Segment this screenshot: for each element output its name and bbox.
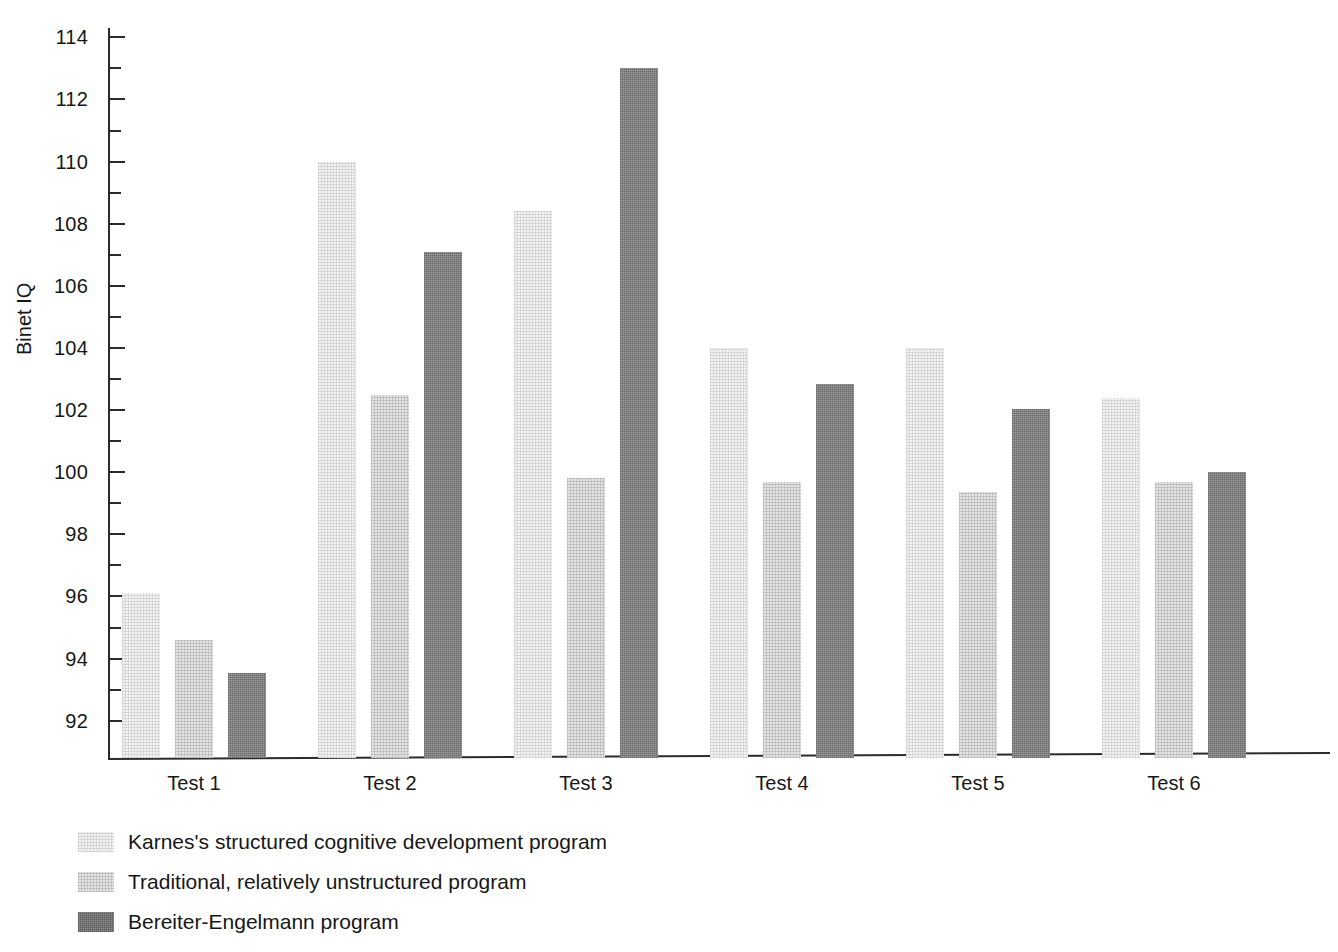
bar (763, 482, 801, 758)
bar (122, 593, 160, 758)
bar (906, 348, 944, 758)
y-axis-minor-tick (110, 192, 121, 194)
legend-item-label: Traditional, relatively unstructured pro… (128, 866, 526, 898)
y-axis-tick-label: 92 (65, 711, 88, 731)
y-axis-title: Binet IQ (14, 283, 34, 355)
bar (318, 162, 356, 758)
bar (424, 252, 462, 758)
y-axis-major-tick (110, 223, 125, 225)
y-axis-tick-label: 114 (56, 27, 89, 47)
x-axis-tick-label: Test 4 (710, 772, 854, 794)
y-axis-line (108, 28, 110, 760)
y-axis-tick-label: 110 (56, 152, 89, 172)
y-axis-minor-tick (110, 378, 121, 380)
legend-swatch-light (78, 832, 114, 852)
bar (175, 640, 213, 758)
y-axis-minor-tick (110, 564, 121, 566)
legend-item-label: Bereiter-Engelmann program (128, 906, 399, 938)
bar (228, 673, 266, 758)
x-axis-tick-label: Test 3 (514, 772, 658, 794)
y-axis-tick-label: 104 (54, 338, 88, 358)
plot-area: 11411211010810610410210098969492 Test 1T… (108, 28, 1330, 760)
bar (1155, 482, 1193, 758)
x-axis-tick-label: Test 5 (906, 772, 1050, 794)
bar (514, 211, 552, 758)
y-axis-major-tick (110, 533, 125, 535)
y-axis-major-tick (110, 98, 125, 100)
y-axis-tick-label: 94 (65, 649, 88, 669)
y-axis-major-tick (110, 285, 125, 287)
y-axis-major-tick (110, 161, 125, 163)
legend-swatch-medium-light (78, 872, 114, 892)
x-axis-tick-label: Test 6 (1102, 772, 1246, 794)
x-axis-tick-label: Test 2 (318, 772, 462, 794)
bar (1208, 472, 1246, 758)
y-axis-tick-label: 102 (54, 400, 88, 420)
bar (1012, 409, 1050, 758)
y-axis-minor-tick (110, 440, 121, 442)
y-axis-minor-tick (110, 502, 121, 504)
bar (567, 478, 605, 758)
y-axis-tick-label: 106 (54, 276, 88, 296)
y-axis-tick-label: 108 (54, 214, 88, 234)
y-axis-minor-tick (110, 254, 121, 256)
bar (371, 395, 409, 758)
y-axis-tick-label: 112 (56, 89, 89, 109)
y-axis-major-tick (110, 471, 125, 473)
y-axis-minor-tick (110, 316, 121, 318)
x-axis-tick-label: Test 1 (122, 772, 266, 794)
bar (816, 384, 854, 758)
y-axis-major-tick (110, 347, 125, 349)
y-axis-minor-tick (110, 689, 121, 691)
bar (620, 68, 658, 758)
y-axis-minor-tick (110, 627, 121, 629)
legend-item-label: Karnes's structured cognitive developmen… (128, 826, 607, 858)
y-axis-minor-tick (110, 67, 121, 69)
bar (1102, 398, 1140, 758)
y-axis-major-tick (110, 409, 125, 411)
y-axis-tick-label: 96 (65, 586, 88, 606)
bar-chart-figure: 11411211010810610410210098969492 Test 1T… (0, 0, 1338, 952)
y-axis-tick-label: 98 (65, 524, 88, 544)
y-axis-major-tick (110, 36, 125, 38)
bar (710, 348, 748, 758)
legend-swatch-dark (78, 912, 114, 932)
y-axis-minor-tick (110, 130, 121, 132)
bar (959, 492, 997, 758)
y-axis-tick-label: 100 (54, 462, 88, 482)
